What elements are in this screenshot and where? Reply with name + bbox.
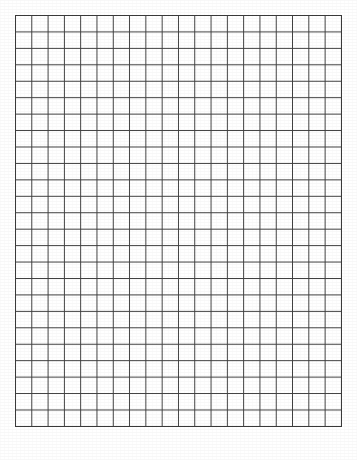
graph-paper-grid: [15, 15, 341, 426]
graph-paper-page: [0, 0, 357, 460]
